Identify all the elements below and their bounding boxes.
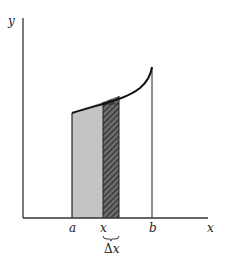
x-axis-label: x bbox=[207, 221, 214, 235]
area-under-curve-diagram: y x a x b Δx bbox=[0, 0, 226, 260]
tick-label-b: b bbox=[149, 221, 157, 235]
tick-label-a: a bbox=[69, 221, 76, 235]
shaded-area-a-to-x bbox=[72, 102, 103, 218]
delta-x-label: Δx bbox=[104, 242, 120, 256]
y-axis-label: y bbox=[7, 14, 15, 28]
tick-label-x: x bbox=[100, 221, 107, 235]
brace-icon bbox=[103, 236, 119, 241]
hatched-strip-delta-x bbox=[103, 96, 119, 218]
